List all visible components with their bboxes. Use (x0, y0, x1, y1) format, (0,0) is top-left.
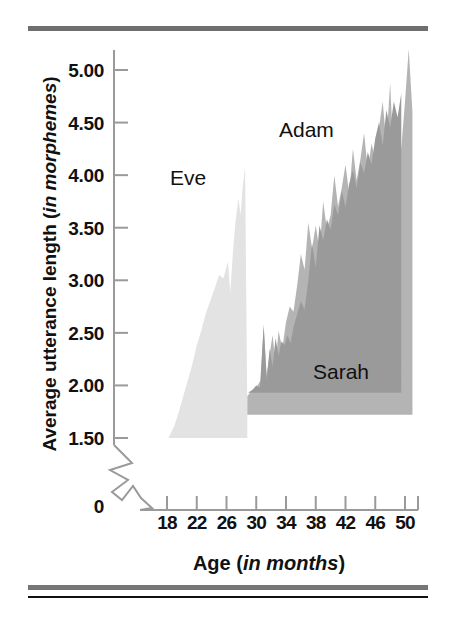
bottom-rule-thick (28, 585, 428, 590)
x-axis-tick-labels: 182226303438424650 (0, 513, 449, 543)
series-label-sarah: Sarah (313, 360, 369, 384)
y-axis-title-italic: in morphemes (39, 83, 60, 213)
series-area-eve (168, 167, 247, 438)
series-label-adam: Adam (279, 118, 334, 142)
y-axis-title: Average utterance length (in morphemes) (39, 44, 61, 484)
series-label-eve: Eve (170, 166, 206, 190)
x-axis-title-main: Age ( (193, 552, 243, 574)
bottom-rule-thin (28, 596, 428, 598)
x-axis-title-close: ) (338, 552, 345, 574)
x-axis-title-italic: in months (243, 552, 339, 574)
axis-break-zigzag (110, 445, 152, 510)
y-axis-title-main: Average utterance length ( (39, 213, 60, 452)
x-axis-label-50: 50 (385, 513, 425, 532)
x-axis-title: Age (in months) (104, 552, 434, 575)
figure-container: 1.502.002.503.003.504.004.505.000 182226… (0, 0, 449, 621)
y-axis-title-close: ) (39, 76, 60, 82)
